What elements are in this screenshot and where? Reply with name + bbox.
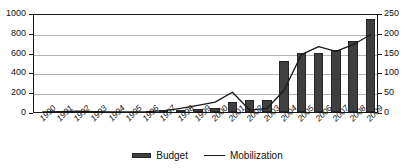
left-axis-tick-600: 600 — [0, 49, 26, 58]
left-axis-tick-400: 400 — [0, 68, 26, 77]
bar-2005 — [297, 53, 306, 112]
left-axis-tick-800: 800 — [0, 29, 26, 38]
legend-label-mobilization: Mobilization — [230, 150, 283, 161]
left-axis-tick-0: 0 — [0, 108, 26, 117]
gridline — [34, 55, 377, 56]
right-axis-tickmark — [378, 14, 382, 15]
right-axis-tick-0: 0 — [384, 108, 415, 117]
right-axis-tickmark — [378, 34, 382, 35]
legend-bar-swatch-icon — [132, 153, 151, 158]
left-axis-tickmark — [29, 34, 33, 35]
right-axis-tickmark — [378, 113, 382, 114]
right-axis-tick-200: 200 — [384, 29, 415, 38]
legend-item-budget: Budget — [132, 150, 188, 161]
right-axis-tickmark — [378, 54, 382, 55]
legend-line-swatch-icon — [204, 155, 225, 156]
left-axis-tickmark — [29, 73, 33, 74]
left-axis-tickmark — [29, 93, 33, 94]
bar-2009 — [366, 19, 375, 112]
right-axis-tickmark — [378, 73, 382, 74]
right-axis-tick-250: 250 — [384, 9, 415, 18]
left-axis-tickmark — [29, 54, 33, 55]
left-axis-tick-1000: 1000 — [0, 9, 26, 18]
chart-container: 1990199119921993199419951996199719981999… — [0, 0, 415, 168]
legend-item-mobilization: Mobilization — [204, 150, 283, 161]
right-axis-tickmark — [378, 93, 382, 94]
plot-area — [33, 14, 378, 113]
right-axis-tick-100: 100 — [384, 68, 415, 77]
line-series-mobilization — [34, 15, 379, 114]
left-axis-tickmark — [29, 14, 33, 15]
legend-label-budget: Budget — [156, 150, 188, 161]
bar-2007 — [331, 50, 340, 112]
left-axis-tickmark — [29, 113, 33, 114]
bar-2006 — [314, 53, 323, 112]
right-axis-tick-50: 50 — [384, 88, 415, 97]
gridline — [34, 74, 377, 75]
bar-2004 — [279, 61, 288, 112]
bar-2008 — [348, 41, 357, 112]
gridline — [34, 94, 377, 95]
chart-legend: Budget Mobilization — [0, 150, 415, 161]
right-axis-tick-150: 150 — [384, 49, 415, 58]
left-axis-tick-200: 200 — [0, 88, 26, 97]
gridline — [34, 35, 377, 36]
